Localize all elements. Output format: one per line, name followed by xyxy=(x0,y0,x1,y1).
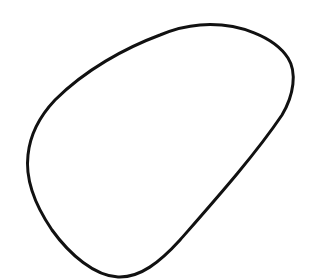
shape-outline xyxy=(27,25,293,277)
hand-drawn-closed-shape xyxy=(0,0,310,280)
drawing-canvas xyxy=(0,0,310,280)
